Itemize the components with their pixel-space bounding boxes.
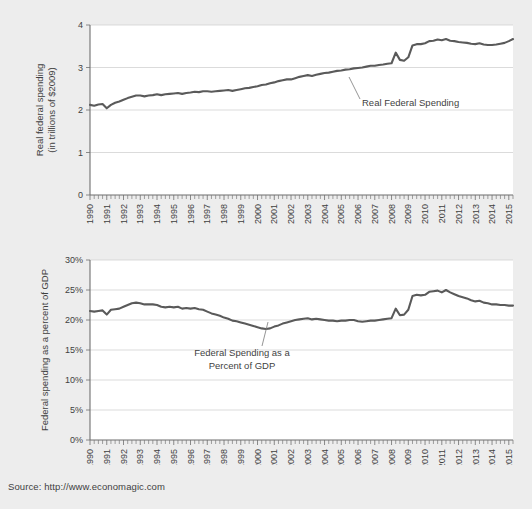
x-tick-label: 1992 — [119, 449, 129, 465]
x-tick-label: 2005 — [336, 449, 346, 465]
x-tick-labels-top: 1990199119921993199419951996199719981999… — [85, 204, 514, 224]
x-tick-label: 2012 — [454, 449, 464, 465]
x-tick-label: 2004 — [320, 449, 330, 465]
y-tick-label: 0% — [70, 435, 83, 445]
y-axis-title-bottom: Federal spending as a percent of GDP — [39, 269, 50, 431]
x-tick-label: 1997 — [202, 204, 212, 224]
x-tick-label: 1995 — [169, 204, 179, 224]
x-tick-label: 1999 — [236, 204, 246, 224]
y-tick-label: 5% — [70, 405, 83, 415]
x-tick-label: 1993 — [135, 449, 145, 465]
x-tick-label: 1995 — [169, 449, 179, 465]
chart-top-svg: 01234 1990199119921993199419951996199719… — [0, 0, 532, 250]
x-tick-labels-bottom: 1990199119921993199419951996199719981999… — [85, 449, 514, 465]
x-tick-label: 2003 — [303, 204, 313, 224]
x-tick-label: 2005 — [336, 204, 346, 224]
y-tick-label: 2 — [78, 105, 83, 115]
x-tick-label: 1994 — [152, 449, 162, 465]
x-tick-label: 1993 — [135, 204, 145, 224]
x-tick-label: 2009 — [403, 204, 413, 224]
x-tick-label: 1996 — [186, 449, 196, 465]
x-tick-label: 1998 — [219, 204, 229, 224]
y-axis-title-top-line2: (in trillions of $2009) — [46, 67, 57, 153]
x-tick-label: 2014 — [487, 449, 497, 465]
x-tick-label: 1997 — [202, 449, 212, 465]
y-tick-label: 1 — [78, 148, 83, 158]
x-tick-label: 1999 — [236, 449, 246, 465]
x-tick-label: 2000 — [253, 449, 263, 465]
x-tick-label: 1990 — [85, 204, 95, 224]
chart-bottom-svg: 0%5%10%15%20%25%30% 19901991199219931994… — [0, 250, 532, 465]
x-tick-label: 1990 — [85, 449, 95, 465]
x-tick-label: 2006 — [353, 449, 363, 465]
x-tick-label: 2003 — [303, 449, 313, 465]
x-tick-label: 2011 — [437, 449, 447, 465]
x-tick-label: 2008 — [387, 204, 397, 224]
x-tick-label: 2015 — [504, 449, 514, 465]
annotation-label-top: Real Federal Spending — [362, 97, 459, 108]
x-tick-label: 1991 — [102, 449, 112, 465]
x-tick-label: 1996 — [186, 204, 196, 224]
x-tick-label: 2007 — [370, 204, 380, 224]
x-tick-label: 1992 — [119, 204, 129, 224]
y-tick-label: 20% — [65, 315, 83, 325]
x-tick-label: 2015 — [504, 204, 514, 224]
x-ticks-top — [90, 195, 513, 200]
y-ticks-bottom: 0%5%10%15%20%25%30% — [65, 255, 90, 445]
x-tick-label: 2007 — [370, 449, 380, 465]
y-tick-label: 30% — [65, 255, 83, 265]
x-tick-label: 1998 — [219, 449, 229, 465]
x-tick-label: 2001 — [269, 204, 279, 224]
y-tick-label: 4 — [78, 20, 83, 30]
x-tick-label: 2014 — [487, 204, 497, 224]
y-ticks-top: 01234 — [78, 20, 90, 200]
annotation-label-bottom-line1: Federal Spending as a — [194, 347, 290, 358]
x-tick-label: 2010 — [420, 449, 430, 465]
x-tick-label: 2010 — [420, 204, 430, 224]
source-note: Source: http://www.economagic.com — [8, 481, 165, 492]
x-tick-label: 2004 — [320, 204, 330, 224]
annotation-label-bottom-line2: Percent of GDP — [209, 360, 276, 371]
y-tick-label: 25% — [65, 285, 83, 295]
x-tick-label: 2000 — [253, 204, 263, 224]
x-tick-label: 2002 — [286, 449, 296, 465]
x-tick-label: 2001 — [269, 449, 279, 465]
x-ticks-bottom — [90, 440, 513, 445]
figure-container: 01234 1990199119921993199419951996199719… — [0, 0, 532, 509]
x-tick-label: 2013 — [471, 449, 481, 465]
x-tick-label: 1994 — [152, 204, 162, 224]
x-tick-label: 2006 — [353, 204, 363, 224]
x-tick-label: 2013 — [471, 204, 481, 224]
x-tick-label: 2008 — [387, 449, 397, 465]
y-axis-title-top-line1: Real federal spending — [34, 64, 45, 156]
x-tick-label: 2011 — [437, 204, 447, 223]
y-tick-label: 10% — [65, 375, 83, 385]
chart-federal-spending-pct-gdp: 0%5%10%15%20%25%30% 19901991199219931994… — [0, 250, 532, 465]
chart-real-federal-spending: 01234 1990199119921993199419951996199719… — [0, 0, 532, 250]
y-tick-label: 3 — [78, 63, 83, 73]
x-tick-label: 2012 — [454, 204, 464, 224]
y-tick-label: 15% — [65, 345, 83, 355]
x-tick-label: 2009 — [403, 449, 413, 465]
y-tick-label: 0 — [78, 190, 83, 200]
x-tick-label: 2002 — [286, 204, 296, 224]
x-tick-label: 1991 — [102, 204, 112, 224]
